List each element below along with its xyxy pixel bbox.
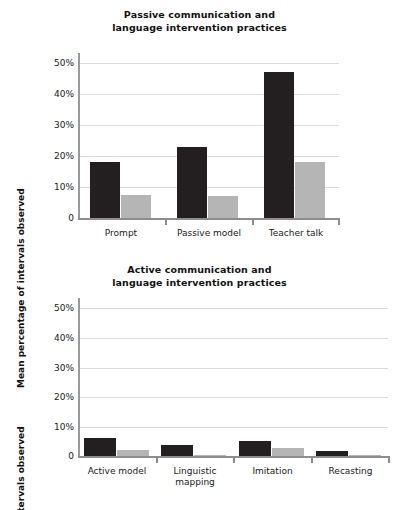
x-tick-3: [338, 218, 340, 225]
gridline-active-10: [78, 427, 388, 428]
y-tick-50: 50%: [40, 58, 74, 68]
bar-light-teacher-talk: [295, 162, 325, 218]
chart-panel-passive: Passive communication and language inter…: [0, 0, 399, 255]
x-tick-active-4: [388, 456, 390, 463]
x-category-linguistic-mapping-line2: mapping: [157, 477, 233, 488]
x-category-active-model: Active model: [78, 466, 156, 477]
bar-light-linguistic-mapping: [194, 455, 226, 456]
x-tick-1: [165, 218, 167, 225]
x-axis-line: [78, 218, 339, 220]
x-tick-active-2: [233, 456, 235, 463]
bar-light-prompt: [121, 195, 151, 218]
plot-area-active: Mean percentage of intervals observed 50…: [0, 255, 399, 510]
y-tick-active-40: 40%: [40, 333, 74, 343]
y-tick-10: 10%: [40, 182, 74, 192]
bar-dark-teacher-talk: [264, 72, 294, 218]
chart-panel-active: Active communication and language interv…: [0, 255, 399, 510]
x-category-imitation: Imitation: [234, 466, 311, 477]
gridline-active-40: [78, 338, 388, 339]
gridline-active-50: [78, 308, 388, 309]
plot-area-passive: Mean percentage of intervals observed 50…: [0, 0, 399, 255]
y-axis-label-active: Mean percentage of intervals observed: [16, 456, 30, 510]
bar-light-imitation: [272, 448, 304, 456]
x-tick-active-1: [156, 456, 158, 463]
x-tick-active-3: [311, 456, 313, 463]
bar-dark-active-model: [84, 438, 116, 456]
y-tick-40: 40%: [40, 89, 74, 99]
y-tick-20: 20%: [40, 151, 74, 161]
gridline-active-20: [78, 397, 388, 398]
bar-light-active-model: [117, 450, 149, 456]
gridline-active-30: [78, 368, 388, 369]
gridline-20: [78, 156, 339, 157]
y-tick-active-50: 50%: [40, 303, 74, 313]
x-category-passive-model: Passive model: [166, 228, 252, 239]
y-tick-active-30: 30%: [40, 363, 74, 373]
bar-dark-prompt: [90, 162, 120, 218]
x-category-prompt: Prompt: [81, 228, 161, 239]
bar-light-recasting: [349, 455, 381, 456]
gridline-30: [78, 125, 339, 126]
y-axis-line-active: [78, 298, 80, 456]
y-tick-active-0: 0: [40, 451, 74, 461]
gridline-50: [78, 63, 339, 64]
x-category-linguistic-mapping: Linguistic mapping: [157, 466, 233, 488]
bar-light-passive-model: [208, 196, 238, 218]
y-tick-active-20: 20%: [40, 392, 74, 402]
y-tick-0: 0: [40, 213, 74, 223]
bar-dark-passive-model: [177, 147, 207, 218]
gridline-40: [78, 94, 339, 95]
bar-dark-recasting: [316, 451, 348, 456]
bar-dark-linguistic-mapping: [161, 445, 193, 456]
y-axis-line: [78, 53, 80, 218]
x-category-linguistic-mapping-line1: Linguistic: [174, 466, 217, 476]
bar-dark-imitation: [239, 441, 271, 456]
x-tick-2: [252, 218, 254, 225]
y-tick-30: 30%: [40, 120, 74, 130]
y-tick-active-10: 10%: [40, 422, 74, 432]
x-category-teacher-talk: Teacher talk: [253, 228, 339, 239]
x-category-recasting: Recasting: [312, 466, 389, 477]
